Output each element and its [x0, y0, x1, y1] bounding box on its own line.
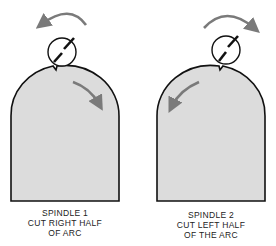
workpiece-2 [157, 65, 265, 201]
spindle-1-caption: SPINDLE 1 CUT RIGHT HALF OF ARC [5, 208, 125, 238]
caption-line: SPINDLE 2 [151, 210, 271, 220]
cutter-2-rotation-arrow-icon [204, 16, 254, 28]
caption-line: OF THE ARC [151, 230, 271, 240]
cutter-2-icon [212, 36, 240, 64]
caption-line: CUT RIGHT HALF [5, 218, 125, 228]
spindle-2-panel [157, 16, 265, 201]
spindle-2-caption: SPINDLE 2 CUT LEFT HALF OF THE ARC [151, 210, 271, 240]
caption-line: CUT LEFT HALF [151, 220, 271, 230]
caption-line: SPINDLE 1 [5, 208, 125, 218]
cutter-1-rotation-arrow-icon [42, 14, 86, 25]
caption-line: OF ARC [5, 228, 125, 238]
workpiece-1 [11, 65, 119, 201]
spindle-1-panel [11, 14, 119, 201]
cutter-1-icon [48, 38, 76, 66]
